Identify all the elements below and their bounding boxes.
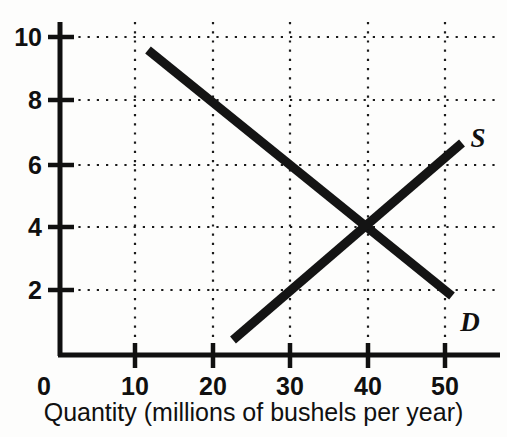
demand-curve-label: D (460, 309, 480, 336)
x-tick-label-10: 10 (121, 374, 149, 399)
y-tick-label-2: 2 (2, 278, 42, 303)
x-axis-title: Quantity (millions of bushels per year) (0, 398, 507, 427)
demand-curve (148, 50, 452, 296)
x-tick-label-50: 50 (431, 374, 459, 399)
y-tick-label-10: 10 (2, 25, 42, 50)
supply-demand-chart: 10 8 6 4 2 0 10 20 30 40 50 S D Quantity… (0, 0, 507, 437)
x-tick-label-40: 40 (354, 374, 382, 399)
x-tick-label-30: 30 (276, 374, 304, 399)
y-tick-label-4: 4 (2, 215, 42, 240)
y-tick-label-8: 8 (2, 88, 42, 113)
y-tick-label-6: 6 (2, 153, 42, 178)
supply-curve-label: S (470, 125, 485, 152)
x-tick-label-20: 20 (199, 374, 227, 399)
supply-curve (233, 143, 462, 340)
x-tick-label-0: 0 (37, 374, 51, 399)
